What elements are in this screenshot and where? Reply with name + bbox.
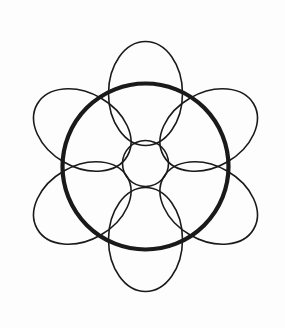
petal-top [109, 42, 183, 146]
petal-upper-right [145, 72, 272, 188]
petal-lower-left [19, 145, 146, 261]
petal-lower-right [145, 145, 272, 261]
petal-group [19, 42, 272, 292]
center-small-circle [123, 141, 169, 187]
petal-bottom [109, 188, 183, 292]
petal-upper-left [19, 72, 146, 188]
bold-outer-circle [63, 84, 229, 250]
figure-canvas [0, 0, 285, 328]
rosette-drawing [0, 0, 285, 328]
